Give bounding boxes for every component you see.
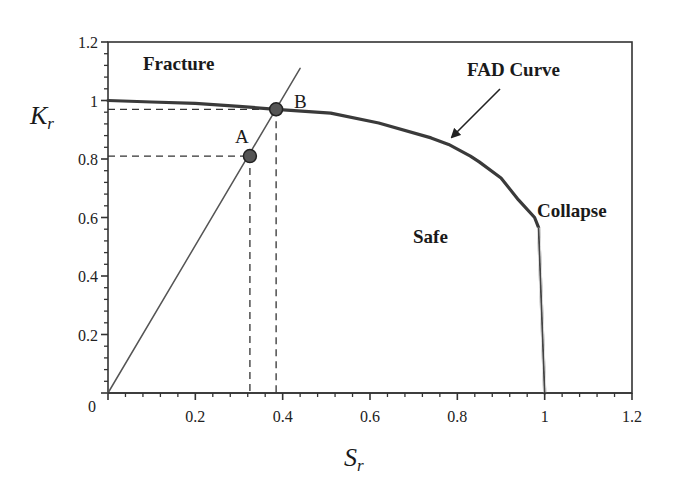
point-B-label: B xyxy=(294,91,307,112)
x-tick-label: 0.6 xyxy=(360,408,380,425)
y-tick-label: 0.6 xyxy=(78,210,98,227)
y-tick-label: 0.8 xyxy=(78,151,98,168)
load-line xyxy=(108,68,300,393)
x-tick-label: 1.2 xyxy=(622,408,642,425)
point-A-label: A xyxy=(235,126,249,147)
fad-curve-line xyxy=(108,101,545,394)
y-tick-label: 0.4 xyxy=(78,268,98,285)
point-A-marker xyxy=(243,150,256,163)
origin-tick-label: 0 xyxy=(88,398,96,415)
axis-ticks xyxy=(101,42,632,400)
point-B-marker xyxy=(270,103,283,116)
y-tick-label: 1.2 xyxy=(78,34,98,51)
safe-region-label: Safe xyxy=(413,226,448,247)
x-tick-label: 0.4 xyxy=(273,408,293,425)
fad-curve-label: FAD Curve xyxy=(467,59,560,80)
fad-chart: 0.20.40.60.811.20.20.40.60.811.20 AB Fra… xyxy=(0,0,682,502)
data-series xyxy=(108,68,632,393)
chart-annotations: FractureFAD CurveSafeCollapse xyxy=(143,53,607,247)
x-axis-label: Sr xyxy=(344,443,364,475)
axis-tick-labels: 0.20.40.60.811.20.20.40.60.811.20 xyxy=(78,34,642,425)
data-points: AB xyxy=(235,91,307,162)
x-tick-label: 0.2 xyxy=(185,408,205,425)
x-tick-label: 1 xyxy=(541,408,549,425)
y-axis-label: Kr xyxy=(29,101,54,133)
collapse-limit-line xyxy=(539,228,545,393)
y-tick-label: 1 xyxy=(90,93,98,110)
y-tick-label: 0.2 xyxy=(78,327,98,344)
fad-curve-arrow-icon xyxy=(452,89,500,137)
x-tick-label: 0.8 xyxy=(447,408,467,425)
collapse-region-label: Collapse xyxy=(537,200,607,221)
fracture-region-label: Fracture xyxy=(143,53,214,74)
